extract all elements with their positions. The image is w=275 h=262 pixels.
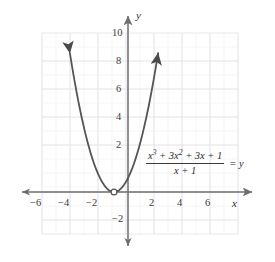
curve-branch-left [70,53,114,192]
x-tick-label-2: 2 [149,198,154,209]
equation-equals-y: = y [229,158,243,170]
x-tick-label--2: −2 [86,198,97,209]
plot-canvas [0,0,275,262]
y-tick-label-6: 6 [116,84,121,95]
equation-denominator: x + 1 [172,164,198,177]
y-tick-label--2: −2 [112,214,123,225]
numerator-mid: + 3 [156,150,174,161]
equation-fraction: x3 + 3x2 + 3x + 1 x + 1 [146,150,224,177]
x-axis-label: x [232,198,237,209]
numerator-tail: + 3x + 1 [183,150,223,161]
x-tick-label--4: −4 [58,198,69,209]
x-tick-label-4: 4 [177,198,182,209]
graph-figure: −6 −4 −2 2 4 6 10 8 6 4 2 −2 x y x3 + 3x… [0,0,275,262]
y-tick-label-8: 8 [116,56,121,67]
y-axis-label: y [136,10,141,21]
y-tick-label-10: 10 [112,28,123,39]
hole-open-circle [111,189,117,195]
x-tick-label-6: 6 [205,198,210,209]
equation-numerator: x3 + 3x2 + 3x + 1 [146,150,224,163]
y-tick-label-4: 4 [116,112,121,123]
y-tick-label-2: 2 [116,140,121,151]
x-tick-label--6: −6 [30,198,41,209]
equation-annotation: x3 + 3x2 + 3x + 1 x + 1 = y [146,150,244,177]
